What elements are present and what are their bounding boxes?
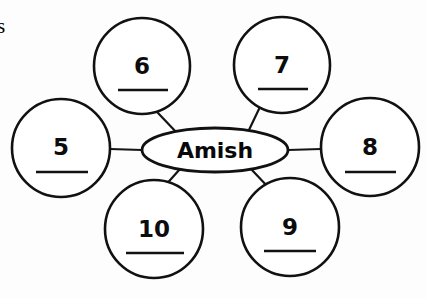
node-8[interactable]: 8 (321, 98, 419, 196)
center-node-label: Amish (177, 138, 253, 163)
node-10[interactable]: 10 (105, 180, 203, 278)
node-5[interactable]: 5 (12, 99, 110, 197)
node-7[interactable]: 7 (234, 17, 330, 113)
node-6[interactable]: 6 (94, 18, 190, 114)
edge-center-to-node-5 (110, 149, 142, 150)
node-5-label: 5 (53, 134, 69, 160)
center-node[interactable]: Amish (142, 128, 288, 172)
worksheet-canvas: s 5 6 7 (0, 0, 427, 298)
node-7-label: 7 (274, 52, 290, 78)
node-10-label: 10 (138, 216, 170, 242)
word-web-diagram: 5 6 7 8 9 10 (0, 0, 427, 298)
node-9-label: 9 (282, 214, 298, 240)
node-9[interactable]: 9 (241, 178, 339, 276)
node-6-label: 6 (134, 53, 150, 79)
edge-center-to-node-8 (288, 149, 321, 150)
edge-center-to-node-7 (248, 109, 259, 132)
node-8-label: 8 (362, 134, 378, 160)
